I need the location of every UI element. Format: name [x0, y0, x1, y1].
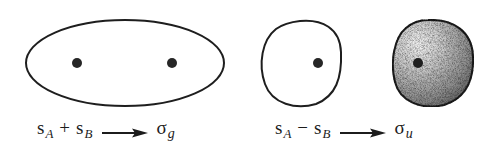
shaded-lobe-body [393, 20, 473, 107]
antibonding-lobe-shaded [393, 20, 473, 107]
result-subscript: u [406, 126, 413, 141]
term-1-symbol: s [275, 117, 282, 138]
nucleus-dot [313, 58, 323, 68]
bonding-orbital [26, 20, 224, 106]
right-arrow-icon [340, 128, 386, 138]
nucleus-a-dot [72, 58, 82, 68]
result-symbol: σ [394, 117, 404, 138]
result-subscript: g [168, 126, 175, 141]
term-2: sB [314, 117, 330, 139]
result-orbital: σg [156, 117, 174, 139]
antibonding-equation-label: sA − sB σu [275, 117, 413, 145]
right-arrow-icon [102, 128, 148, 138]
nucleus-dot [413, 58, 423, 68]
term-1: sA [275, 117, 291, 139]
antibonding-lobe-open [262, 21, 341, 106]
nucleus-b-dot [167, 58, 177, 68]
term-2-subscript: B [84, 126, 92, 141]
minus-operator: − [297, 117, 308, 139]
bonding-orbital-boundary [26, 20, 224, 106]
term-2-symbol: s [76, 117, 83, 138]
open-lobe-boundary [262, 21, 341, 106]
plus-operator: + [59, 117, 70, 139]
term-1: sA [37, 117, 53, 139]
bonding-equation-label: sA + sB σg [37, 117, 175, 145]
term-2-symbol: s [314, 117, 321, 138]
term-1-symbol: s [37, 117, 44, 138]
term-1-subscript: A [45, 126, 53, 141]
result-orbital: σu [394, 117, 412, 139]
term-2-subscript: B [322, 126, 330, 141]
result-symbol: σ [156, 117, 166, 138]
term-2: sB [76, 117, 92, 139]
term-1-subscript: A [283, 126, 291, 141]
